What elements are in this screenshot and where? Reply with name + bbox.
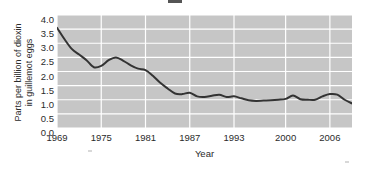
scan-speck-left: [88, 150, 92, 152]
title-fragment: [168, 0, 182, 3]
y-tick-label: 2.5: [26, 57, 54, 67]
x-tick-label: 2006: [310, 132, 350, 143]
y-tick-label: 1.0: [26, 100, 54, 110]
y-tick-label: 0.5: [26, 114, 54, 124]
x-tick-label: 1969: [37, 132, 77, 143]
y-tick-label: 3.0: [26, 43, 54, 53]
y-tick-label: 4.0: [26, 15, 54, 25]
x-axis-tick-labels: 1969197519811987199320002006: [57, 132, 352, 146]
y-tick-label: 2.0: [26, 72, 54, 82]
y-axis-tick-labels: 0.00.51.01.52.02.53.03.54.0: [26, 11, 54, 133]
x-tick-label: 1975: [81, 132, 121, 143]
plot-svg: [57, 15, 352, 128]
x-tick-label: 1987: [170, 132, 210, 143]
x-tick-label: 1981: [126, 132, 166, 143]
scan-speck-right: [345, 161, 349, 163]
x-tick-label: 2000: [266, 132, 306, 143]
y-axis-label-line1: Parts per billion of dioxin: [13, 3, 24, 143]
y-tick-label: 3.5: [26, 29, 54, 39]
plot-area: [57, 15, 352, 128]
x-axis-label: Year: [57, 148, 352, 159]
chart-figure: Parts per billion of dioxin in guillemot…: [0, 0, 365, 170]
x-tick-label: 1993: [214, 132, 254, 143]
y-tick-label: 1.5: [26, 86, 54, 96]
